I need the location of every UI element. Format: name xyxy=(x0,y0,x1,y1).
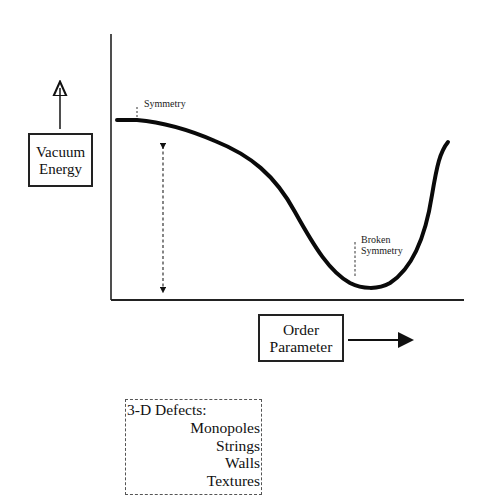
defect-item-textures: Textures xyxy=(190,472,260,490)
symmetry-label: Symmetry xyxy=(144,98,186,109)
broken-symmetry-line2: Symmetry xyxy=(361,245,403,256)
order-parameter-line1: Order xyxy=(260,321,342,338)
defect-item-walls: Walls xyxy=(190,454,260,472)
order-parameter-label-box: Order Parameter xyxy=(258,314,344,362)
vacuum-energy-line2: Energy xyxy=(30,161,91,178)
broken-symmetry-label: Broken Symmetry xyxy=(361,234,403,256)
vacuum-energy-line1: Vacuum xyxy=(30,144,91,161)
defect-item-monopoles: Monopoles xyxy=(190,419,260,437)
defects-title: 3-D Defects: xyxy=(127,401,207,419)
vacuum-energy-label-box: Vacuum Energy xyxy=(28,133,93,187)
order-parameter-line2: Parameter xyxy=(260,338,342,355)
defect-item-strings: Strings xyxy=(190,437,260,455)
defects-list: Monopoles Strings Walls Textures xyxy=(190,419,260,489)
defects-box: 3-D Defects: Monopoles Strings Walls Tex… xyxy=(125,399,262,495)
broken-symmetry-line1: Broken xyxy=(361,234,403,245)
potential-curve xyxy=(117,120,448,288)
